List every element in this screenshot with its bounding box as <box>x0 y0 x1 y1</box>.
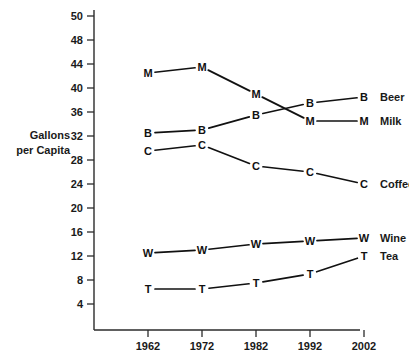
y-tick-label: 16 <box>71 226 83 238</box>
line-chart: Gallons per Capita 504844403632282420161… <box>0 0 409 362</box>
series-segment-wine <box>263 241 303 243</box>
y-tick-label: 32 <box>71 130 83 142</box>
data-point-marker-coffee: C <box>252 160 260 172</box>
data-point-marker-wine: W <box>143 247 154 259</box>
x-tick-label: 1992 <box>298 340 322 352</box>
series-segment-coffee <box>317 174 357 183</box>
y-tick-label: 44 <box>71 58 84 70</box>
y-tick-label: 24 <box>71 178 84 190</box>
series-segment-coffee <box>263 167 303 171</box>
series-segment-coffee <box>155 146 195 150</box>
x-tick-label: 1972 <box>190 340 214 352</box>
data-point-marker-wine: W <box>305 235 316 247</box>
series-segment-tea <box>317 258 358 272</box>
data-point-marker-tea: T <box>199 283 206 295</box>
series-label-coffee: Coffee <box>380 178 409 190</box>
data-point-marker-tea: T <box>253 277 260 289</box>
data-point-marker-tea: T <box>307 268 314 280</box>
y-tick-label: 50 <box>71 10 83 22</box>
y-tick-label: 40 <box>71 82 83 94</box>
data-point-marker-wine: W <box>359 232 370 244</box>
series-label-milk: Milk <box>380 115 402 127</box>
y-tick-label: 36 <box>71 106 83 118</box>
series-segment-beer <box>209 117 250 128</box>
y-tick-label: 48 <box>71 34 83 46</box>
series-segment-beer <box>263 105 303 114</box>
series-lines-group <box>155 68 357 289</box>
data-point-marker-milk: M <box>251 88 260 100</box>
series-segment-wine <box>155 250 195 252</box>
data-point-marker-beer: B <box>144 127 152 139</box>
series-segment-beer <box>317 98 357 102</box>
data-point-marker-beer: B <box>360 91 368 103</box>
x-tick-label: 2002 <box>352 340 376 352</box>
series-label-wine: Wine <box>380 232 406 244</box>
data-point-marker-wine: W <box>251 238 262 250</box>
data-point-marker-beer: B <box>198 124 206 136</box>
y-tick-label: 20 <box>71 202 83 214</box>
data-point-marker-tea: T <box>145 283 152 295</box>
series-labels-group: BeerMilkCoffeeWineTea <box>380 91 409 262</box>
data-point-marker-beer: B <box>306 97 314 109</box>
series-segment-tea <box>209 284 249 288</box>
data-point-marker-milk: M <box>305 115 314 127</box>
data-point-marker-tea: T <box>361 250 368 262</box>
data-point-marker-coffee: C <box>360 178 368 190</box>
data-point-marker-coffee: C <box>144 145 152 157</box>
y-tick-label: 8 <box>77 274 83 286</box>
series-segment-milk <box>155 68 195 72</box>
data-point-marker-milk: M <box>197 61 206 73</box>
x-axis-ticks: 19621972198219922002 <box>136 330 376 352</box>
data-point-marker-wine: W <box>197 244 208 256</box>
series-label-tea: Tea <box>380 250 399 262</box>
series-segment-tea <box>263 275 303 282</box>
series-segment-beer <box>155 130 195 132</box>
data-point-marker-milk: M <box>359 115 368 127</box>
x-tick-label: 1982 <box>244 340 268 352</box>
data-point-marker-beer: B <box>252 109 260 121</box>
series-segment-wine <box>209 245 249 249</box>
y-tick-label: 4 <box>77 298 84 310</box>
x-tick-label: 1962 <box>136 340 160 352</box>
series-segment-milk <box>208 70 249 91</box>
series-label-beer: Beer <box>380 91 405 103</box>
series-segment-coffee <box>209 148 250 164</box>
series-segment-wine <box>317 238 357 240</box>
plot-area: 504844403632282420161284 196219721982199… <box>0 0 409 362</box>
series-segment-milk <box>262 97 303 118</box>
axes-group <box>94 10 360 330</box>
data-point-marker-coffee: C <box>306 166 314 178</box>
y-tick-label: 12 <box>71 250 83 262</box>
data-point-marker-coffee: C <box>198 139 206 151</box>
data-point-marker-milk: M <box>143 67 152 79</box>
y-tick-label: 28 <box>71 154 83 166</box>
y-axis-ticks: 504844403632282420161284 <box>71 10 94 310</box>
